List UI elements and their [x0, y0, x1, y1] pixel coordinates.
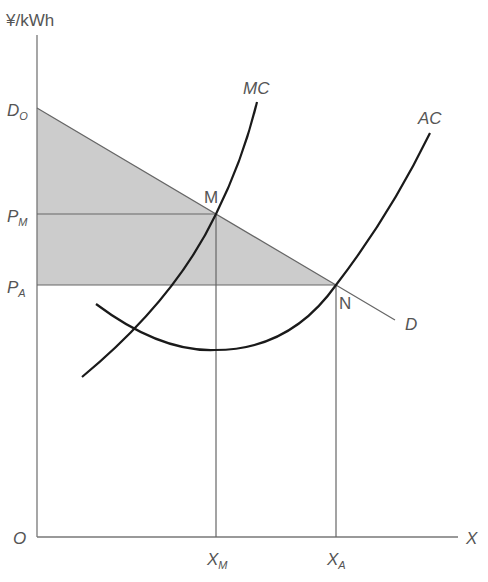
xm-label: XM: [206, 550, 228, 571]
mc-curve-label: MC: [243, 79, 270, 98]
pm-label: PM: [7, 207, 28, 228]
ac-curve-label: AC: [417, 109, 442, 128]
x-axis-label: X: [465, 529, 478, 548]
pa-label: PA: [7, 278, 26, 299]
y-axis-label: ¥/kWh: [5, 11, 54, 30]
monopoly-pricing-diagram: ¥/kWh DO PM PA O X XM XA MC AC D M N: [0, 0, 488, 582]
origin-label: O: [13, 529, 26, 548]
point-n-label: N: [339, 294, 351, 313]
xa-label: XA: [326, 550, 346, 571]
demand-intercept-label: DO: [7, 101, 28, 122]
point-m-label: M: [204, 188, 218, 207]
demand-curve-label: D: [405, 315, 417, 334]
